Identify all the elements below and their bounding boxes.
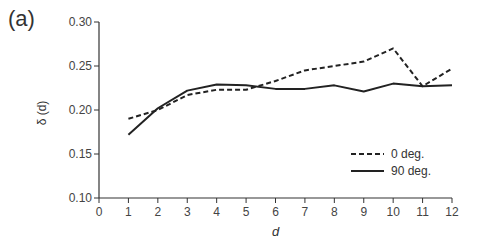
y-tick-label: 0.15 xyxy=(69,147,93,161)
x-axis-label: d xyxy=(272,224,280,239)
x-tick-label: 11 xyxy=(416,205,429,219)
x-tick-label: 10 xyxy=(386,205,400,219)
x-tick-label: 0 xyxy=(96,205,103,219)
y-tick-label: 0.10 xyxy=(69,191,93,205)
x-tick-label: 6 xyxy=(272,205,279,219)
x-tick-label: 4 xyxy=(213,205,220,219)
y-tick-label: 0.30 xyxy=(69,15,93,29)
y-axis-label: δ (d) xyxy=(35,101,49,126)
x-tick-label: 3 xyxy=(184,205,191,219)
series-90-deg xyxy=(128,84,452,135)
x-tick-label: 12 xyxy=(445,205,459,219)
legend-label: 90 deg. xyxy=(391,164,431,178)
x-tick-label: 9 xyxy=(360,205,367,219)
x-tick-label: 2 xyxy=(154,205,161,219)
legend-label: 0 deg. xyxy=(391,147,424,161)
y-tick-label: 0.20 xyxy=(69,103,93,117)
x-tick-label: 1 xyxy=(125,205,132,219)
x-tick-label: 5 xyxy=(243,205,250,219)
x-tick-label: 8 xyxy=(331,205,338,219)
x-tick-label: 7 xyxy=(302,205,309,219)
line-chart: 01234567891011120.100.150.200.250.30dδ (… xyxy=(0,0,479,250)
y-tick-label: 0.25 xyxy=(69,59,93,73)
